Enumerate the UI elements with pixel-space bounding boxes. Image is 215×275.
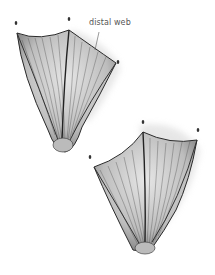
claw-icon: [117, 60, 120, 64]
claw-icon: [197, 128, 200, 132]
claw-icon: [68, 17, 71, 21]
claw-icon: [89, 155, 92, 159]
lower-foot: [89, 120, 200, 254]
upper-foot: [15, 17, 120, 152]
claw-icon: [142, 120, 145, 124]
claw-icon: [15, 21, 18, 25]
distal-web-label: distal web: [89, 18, 131, 27]
webbed-feet-illustration: [0, 0, 215, 275]
